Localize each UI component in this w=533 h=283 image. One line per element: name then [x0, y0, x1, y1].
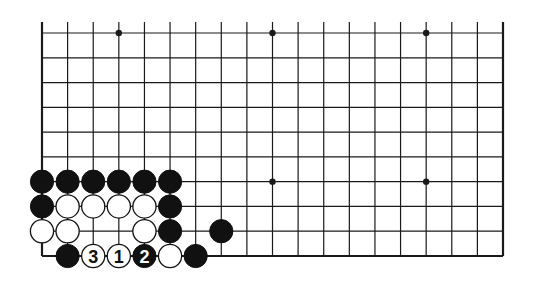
black-stone: [158, 170, 181, 193]
white-stone: [82, 195, 105, 218]
white-stone-icon: [56, 220, 79, 243]
white-stone: [107, 195, 130, 218]
black-stone-icon: [56, 244, 79, 267]
black-stone: [158, 195, 181, 218]
white-stone-icon: [56, 195, 79, 218]
black-stone: [82, 170, 105, 193]
white-stone: [56, 195, 79, 218]
white-stone: [56, 220, 79, 243]
move-number-label: 1: [114, 247, 124, 267]
black-stone-icon: [184, 244, 207, 267]
black-stone: [210, 220, 233, 243]
black-stone-icon: [107, 170, 130, 193]
black-stone-icon: [30, 195, 53, 218]
black-stone-icon: [158, 220, 181, 243]
star-point-icon: [269, 178, 275, 184]
star-point-icon: [423, 30, 429, 36]
black-stone-move-2: 2: [133, 244, 156, 267]
black-stone-icon: [30, 170, 53, 193]
white-stone-icon: [158, 244, 181, 267]
black-stone: [107, 170, 130, 193]
black-stone-icon: [133, 170, 156, 193]
white-stone: [158, 244, 181, 267]
white-stone-icon: [82, 195, 105, 218]
board-grid: [42, 22, 503, 256]
black-stone-icon: [56, 170, 79, 193]
black-stone: [184, 244, 207, 267]
black-stone: [56, 170, 79, 193]
white-stone-move-3: 3: [82, 244, 105, 267]
black-stone: [133, 170, 156, 193]
white-stone: [30, 220, 53, 243]
move-number-label: 3: [88, 247, 98, 267]
white-stone-icon: [133, 195, 156, 218]
black-stone: [158, 220, 181, 243]
black-stone-icon: [210, 220, 233, 243]
black-stone: [30, 195, 53, 218]
black-stone-icon: [158, 170, 181, 193]
white-stone-icon: [30, 220, 53, 243]
white-stone: [133, 195, 156, 218]
stones-layer: 312: [30, 170, 232, 268]
star-point-icon: [423, 178, 429, 184]
star-point-icon: [269, 30, 275, 36]
black-stone: [56, 244, 79, 267]
black-stone: [30, 170, 53, 193]
white-stone: [133, 220, 156, 243]
star-point-icon: [116, 30, 122, 36]
white-stone-move-1: 1: [107, 244, 130, 267]
white-stone-icon: [133, 220, 156, 243]
white-stone-icon: [107, 195, 130, 218]
move-number-label: 2: [139, 247, 149, 267]
black-stone-icon: [82, 170, 105, 193]
black-stone-icon: [158, 195, 181, 218]
go-board: 312: [0, 0, 533, 283]
